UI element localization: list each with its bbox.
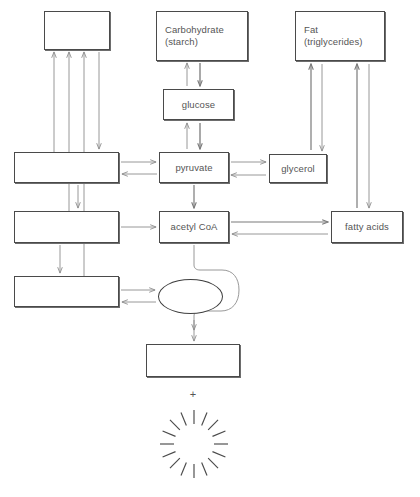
node-mid-left-blank (14, 152, 119, 183)
node-fatty-acids: fatty acids (331, 211, 403, 243)
connector-layer (0, 0, 420, 497)
burst-ray (163, 431, 176, 436)
node-lower-left-blank (14, 211, 119, 243)
burst-ray (212, 431, 225, 436)
node-glycerol: glycerol (269, 154, 327, 183)
burst-ray (170, 458, 180, 468)
node-carbohydrate: Carbohydrate(starch) (156, 11, 248, 61)
burst-ray (181, 413, 186, 426)
node-label-acetyl-coa: acetyl CoA (160, 221, 228, 233)
node-label-carbohydrate: Carbohydrate (157, 24, 247, 36)
node-label-glycerol: glycerol (270, 163, 326, 175)
node-sublabel-carbohydrate: (starch) (157, 36, 247, 48)
metabolic-pathway-diagram: Carbohydrate(starch)Fat(triglycerides)gl… (0, 0, 420, 497)
burst-ray (208, 458, 218, 468)
node-acetyl-coa: acetyl CoA (159, 211, 229, 243)
burst-ray (202, 462, 207, 475)
burst-ray (163, 452, 176, 457)
node-label-fat: Fat (296, 24, 384, 36)
burst-ray (212, 452, 225, 457)
node-sublabel-fat: (triglycerides) (296, 36, 384, 48)
node-glucose: glucose (163, 89, 234, 120)
burst-ray (208, 420, 218, 430)
plus-symbol: + (184, 389, 202, 400)
node-product-blank (146, 344, 240, 377)
node-cycle-ellipse (158, 279, 223, 314)
energy-burst-icon (160, 410, 228, 478)
node-bottom-left-blank (14, 276, 119, 307)
node-label-fatty-acids: fatty acids (332, 221, 402, 233)
node-top-left-blank (44, 11, 110, 50)
burst-ray (181, 462, 186, 475)
node-label-pyruvate: pyruvate (160, 162, 228, 174)
burst-ray (170, 420, 180, 430)
node-label-glucose: glucose (164, 99, 233, 111)
node-fat: Fat(triglycerides) (295, 11, 385, 61)
node-pyruvate: pyruvate (159, 152, 229, 183)
burst-ray (202, 413, 207, 426)
